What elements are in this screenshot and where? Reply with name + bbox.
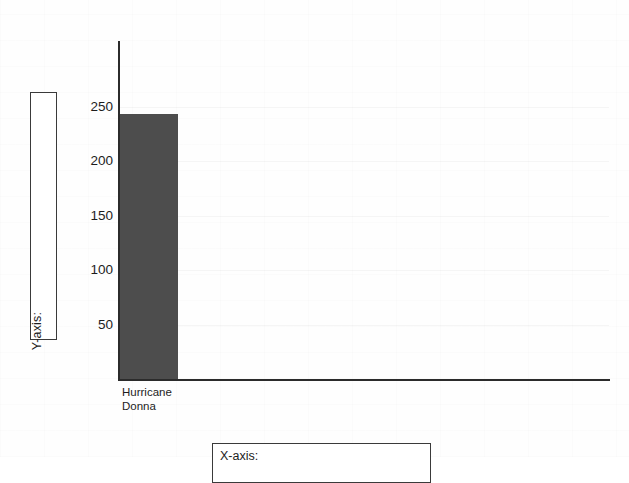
x-category-label-hurricane-donna: Hurricane Donna: [122, 385, 212, 413]
y-axis-line: [118, 41, 120, 380]
gridline-100: [120, 270, 609, 271]
x-category-label-line1: Hurricane: [122, 385, 212, 399]
y-tick-150: 150: [62, 209, 113, 223]
gridline-200: [120, 161, 609, 162]
y-axis-tick-labels: 250 200 150 100 50: [62, 0, 113, 457]
gridline-50: [120, 325, 609, 326]
y-tick-100: 100: [62, 263, 113, 277]
y-tick-250: 250: [62, 100, 113, 114]
gridline-250: [120, 107, 609, 108]
gridline-150: [120, 216, 609, 217]
x-axis-line: [118, 379, 610, 381]
x-axis-caption-box[interactable]: X-axis:: [212, 443, 431, 483]
y-tick-200: 200: [62, 154, 113, 168]
x-axis-caption-label: X-axis:: [220, 449, 258, 463]
x-category-label-line2: Donna: [122, 399, 212, 413]
y-tick-50: 50: [62, 318, 113, 332]
bar-hurricane-donna[interactable]: [119, 114, 178, 379]
